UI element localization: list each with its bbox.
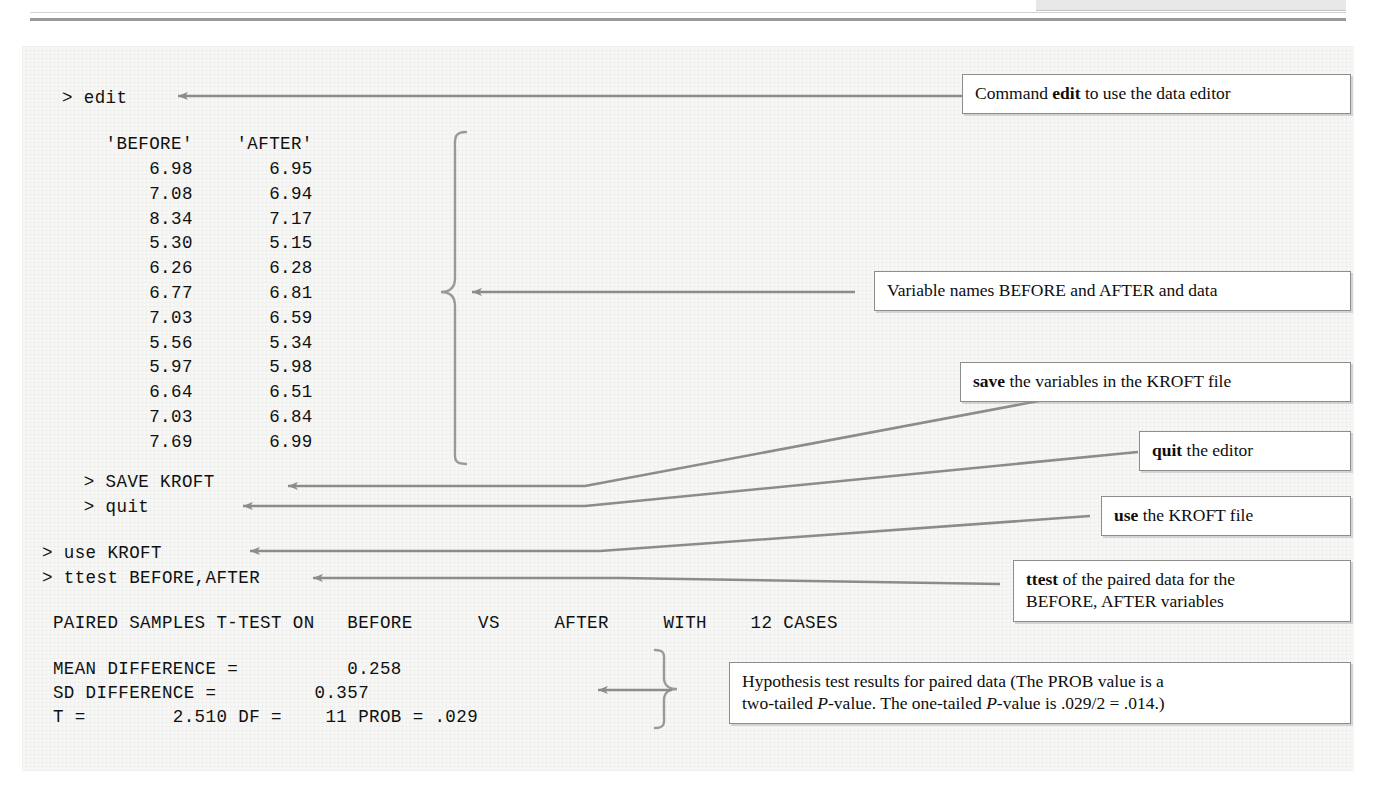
console-line-sd-difference: SD DIFFERENCE = 0.357 xyxy=(42,681,369,706)
callout-hypothesis-line2-a: two-tailed xyxy=(742,693,817,713)
callout-quit: quit the editor xyxy=(1139,431,1351,471)
console-line-t-statistic: T = 2.510 DF = 11 PROB = .029 xyxy=(42,705,478,730)
header-rule-thin xyxy=(30,12,1346,13)
console-line-paired-header: PAIRED SAMPLES T-TEST ON BEFORE VS AFTER… xyxy=(42,611,838,636)
page-header-tab xyxy=(1036,0,1346,11)
callout-variables-text: Variable names BEFORE and AFTER and data xyxy=(887,280,1218,300)
callout-hypothesis-line2-b: -value. The one-tailed xyxy=(828,693,986,713)
callout-edit-suffix: to use the data editor xyxy=(1081,83,1231,103)
callout-save-command: save xyxy=(973,371,1005,391)
callout-hypothesis-line2-c: -value is .029/2 = .014.) xyxy=(997,693,1165,713)
callout-ttest-line1-suffix: of the paired data for the xyxy=(1058,569,1235,589)
callout-ttest-command: ttest xyxy=(1026,569,1058,589)
callout-edit-command: edit xyxy=(1052,83,1080,103)
callout-variables: Variable names BEFORE and AFTER and data xyxy=(874,271,1351,311)
callout-hypothesis-line2: two-tailed P-value. The one-tailed P-val… xyxy=(742,692,1338,714)
callout-ttest-line1: ttest of the paired data for the xyxy=(1026,568,1338,590)
callout-save: save the variables in the KROFT file xyxy=(960,362,1351,402)
console-line-mean-difference: MEAN DIFFERENCE = 0.258 xyxy=(42,657,402,682)
console-line-quit: > quit xyxy=(62,495,149,520)
callout-hypothesis-p-italic-1: P xyxy=(817,693,828,713)
callout-use-suffix: the KROFT file xyxy=(1138,505,1253,525)
callout-edit: Command edit to use the data editor xyxy=(962,74,1351,114)
callout-quit-command: quit xyxy=(1152,440,1182,460)
callout-edit-prefix: Command xyxy=(975,83,1052,103)
console-line-save: > SAVE KROFT xyxy=(62,470,215,495)
callout-ttest: ttest of the paired data for the BEFORE,… xyxy=(1013,560,1351,622)
callout-hypothesis-p-italic-2: P xyxy=(986,693,997,713)
console-line-use: > use KROFT xyxy=(42,541,162,566)
callout-hypothesis-line1: Hypothesis test results for paired data … xyxy=(742,670,1338,692)
header-rule xyxy=(30,18,1346,21)
callout-ttest-line2: BEFORE, AFTER variables xyxy=(1026,590,1338,612)
console-table-header: 'BEFORE' 'AFTER' xyxy=(62,132,313,157)
console-line-edit: > edit xyxy=(62,86,127,111)
callout-use-command: use xyxy=(1114,505,1138,525)
console-data-rows: 6.98 6.95 7.08 6.94 8.34 7.17 5.30 5.15 … xyxy=(62,157,313,455)
callout-hypothesis: Hypothesis test results for paired data … xyxy=(729,662,1351,724)
callout-save-suffix: the variables in the KROFT file xyxy=(1005,371,1231,391)
callout-use: use the KROFT file xyxy=(1101,496,1351,536)
console-line-ttest: > ttest BEFORE,AFTER xyxy=(42,566,260,591)
callout-quit-suffix: the editor xyxy=(1182,440,1253,460)
